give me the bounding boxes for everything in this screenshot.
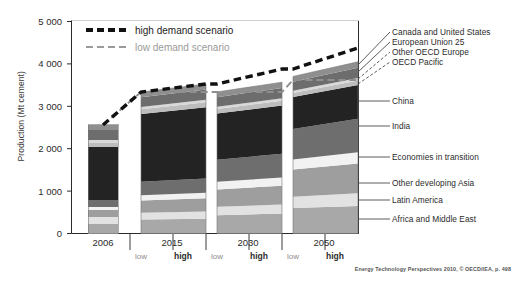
seg-2030-other-developing-asia xyxy=(217,186,282,207)
seg-2006-economies-in-transition xyxy=(88,207,118,210)
scenario-legend: high demand scenario low demand scenario xyxy=(79,20,265,58)
seg-2015-africa-middle-east xyxy=(141,219,206,234)
category-label-canada-united-states: Canada and United States xyxy=(392,28,491,36)
legend-row-high: high demand scenario xyxy=(79,24,265,38)
seg-2006-other-developing-asia xyxy=(88,210,118,217)
y-tick-label-2000: 2 000 xyxy=(18,144,62,154)
category-label-other-oecd-europe: Other OECD Europe xyxy=(392,48,469,56)
source-credit: Energy Technology Perspectives 2010, © O… xyxy=(355,266,511,272)
y-tick-label-5000: 5 000 xyxy=(18,17,62,27)
x-sublabel-2030-low: low xyxy=(197,253,237,261)
x-label-2030: 2030 xyxy=(218,238,278,248)
x-label-2050: 2050 xyxy=(294,238,354,248)
seg-2015-latin-america xyxy=(141,212,206,220)
x-sublabel-2050-high: high xyxy=(315,252,355,261)
category-label-other-developing-asia: Other developing Asia xyxy=(392,179,474,187)
category-label-oecd-pacific: OECD Pacific xyxy=(392,58,443,66)
seg-2006-canada-united-states xyxy=(88,125,118,130)
seg-2006-other-oecd-europe xyxy=(88,140,118,142)
bar-2006 xyxy=(88,125,118,234)
seg-2030-africa-middle-east xyxy=(217,214,282,234)
chart-figure: Production (Mt cement) 0 1 000 2 000 3 0… xyxy=(0,0,519,296)
y-tick-label-3000: 3 000 xyxy=(18,102,62,112)
legend-label-high: high demand scenario xyxy=(135,24,233,38)
category-label-economies-in-transition: Economies in transition xyxy=(392,153,479,161)
category-label-latin-america: Latin America xyxy=(392,196,443,204)
x-sublabel-2015-low: low xyxy=(121,253,161,261)
y-tick-marks xyxy=(67,22,72,234)
seg-2006-india xyxy=(88,200,118,207)
seg-2050-africa-middle-east xyxy=(293,206,358,234)
seg-2006-oecd-pacific xyxy=(88,143,118,148)
bar-2050 xyxy=(293,62,358,234)
seg-2015-other-developing-asia xyxy=(141,198,206,212)
seg-2006-european-union-25 xyxy=(88,130,118,140)
seg-2030-china xyxy=(217,106,282,160)
category-label-china: China xyxy=(392,97,414,105)
y-tick-label-0: 0 xyxy=(18,229,62,239)
legend-row-low: low demand scenario xyxy=(79,41,265,55)
x-sublabel-2050-low: low xyxy=(273,253,313,261)
seg-2006-africa-middle-east xyxy=(88,224,118,234)
seg-2006-latin-america xyxy=(88,217,118,223)
seg-2006-china xyxy=(88,147,118,199)
category-label-european-union-25: European Union 25 xyxy=(392,38,464,46)
y-tick-label-4000: 4 000 xyxy=(18,59,62,69)
y-tick-label-1000: 1 000 xyxy=(18,187,62,197)
bar-2030 xyxy=(217,82,282,233)
bar-2015 xyxy=(141,84,206,234)
category-leader-lines xyxy=(358,32,390,219)
legend-label-low: low demand scenario xyxy=(135,41,230,55)
x-label-2015: 2015 xyxy=(142,238,202,248)
x-label-2006: 2006 xyxy=(73,238,133,248)
y-axis-title: Production (Mt cement) xyxy=(17,51,26,181)
category-label-africa-middle-east: Africa and Middle East xyxy=(392,215,476,223)
seg-2015-china xyxy=(141,107,206,182)
category-label-india: India xyxy=(392,122,410,130)
